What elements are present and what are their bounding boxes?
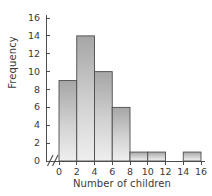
histogram-bar — [59, 81, 77, 161]
histogram-bar — [130, 152, 148, 161]
plot-area — [0, 0, 212, 196]
bars-group — [59, 36, 201, 161]
histogram-bar — [77, 36, 95, 161]
histogram-bar — [112, 107, 130, 161]
histogram-chart: Frequency Number of children 02468101214… — [0, 0, 212, 196]
histogram-bar — [95, 72, 113, 161]
histogram-bar — [183, 152, 201, 161]
histogram-bar — [148, 152, 166, 161]
